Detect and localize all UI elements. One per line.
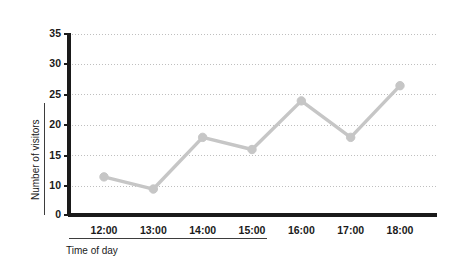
x-axis-tick-label: 18:00	[370, 224, 430, 236]
y-axis-tick-label: 30	[27, 57, 61, 69]
y-axis-tick-label: 35	[27, 27, 61, 39]
y-axis-title-rule	[44, 103, 45, 215]
x-axis-title: Time of day	[66, 245, 118, 256]
y-axis-tick-label: 25	[27, 88, 61, 100]
data-point-marker	[396, 81, 404, 89]
line-chart: Number of visitors Time of day 010152025…	[0, 0, 455, 271]
data-point-marker	[346, 133, 354, 141]
x-axis-title-rule	[69, 238, 267, 239]
data-point-marker	[198, 133, 206, 141]
data-point-marker	[100, 173, 108, 181]
data-point-marker	[297, 97, 305, 105]
data-point-marker	[149, 185, 157, 193]
data-point-marker	[248, 145, 256, 153]
data-line	[104, 86, 400, 189]
